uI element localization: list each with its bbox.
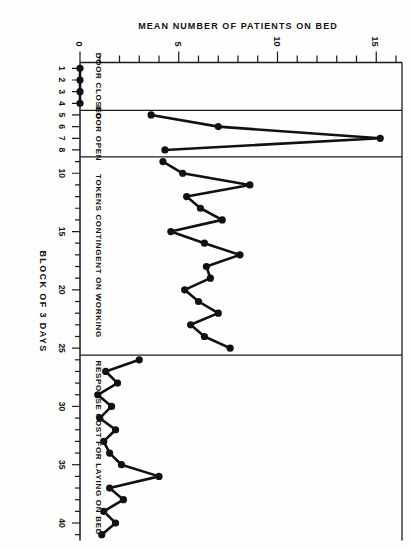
x-tick-label: 1 xyxy=(57,65,67,70)
x-tick-label: 2 xyxy=(57,77,67,82)
x-tick-label: 20 xyxy=(57,285,67,295)
x-tick-label: 15 xyxy=(57,226,67,236)
x-tick-label: 35 xyxy=(57,459,67,469)
line-chart-svg: 0510151234567810152025303540 DOOR CLOSED… xyxy=(0,0,410,549)
rotated-figure-container: 0510151234567810152025303540 DOOR CLOSED… xyxy=(0,0,410,549)
x-tick-label: 6 xyxy=(57,124,67,129)
x-tick-label: 30 xyxy=(57,401,67,411)
y-tick-label: 5 xyxy=(173,41,183,46)
x-tick-label: 7 xyxy=(57,135,67,140)
x-tick-label: 40 xyxy=(57,518,67,528)
x-tick-label: 5 xyxy=(57,112,67,117)
x-tick-label: 25 xyxy=(57,343,67,353)
y-tick-label: 15 xyxy=(370,36,380,46)
figure-canvas: 0510151234567810152025303540 DOOR CLOSED… xyxy=(0,0,410,549)
phase-labels-group: DOOR CLOSEDDOOR OPENTOKENS CONTINGENT ON… xyxy=(94,52,103,534)
x-tick-label: 8 xyxy=(57,147,67,152)
y-tick-label: 0 xyxy=(74,41,84,46)
x-axis-title: BLOCK OF 3 DAYS xyxy=(38,250,48,352)
x-tick-label: 4 xyxy=(57,100,67,105)
y-axis-title: MEAN NUMBER OF PATIENTS ON BED xyxy=(138,20,338,30)
phase-label: RESPONSE COST FOR LAYING ON BED xyxy=(94,360,103,535)
x-tick-label: 3 xyxy=(57,89,67,94)
y-tick-label: 10 xyxy=(272,36,282,46)
phase-label: DOOR OPEN xyxy=(94,106,103,161)
plot-area-wrapper: 0510151234567810152025303540 DOOR CLOSED… xyxy=(0,0,410,549)
phase-label: TOKENS CONTINGENT ON WORKING xyxy=(94,174,103,338)
x-tick-label: 10 xyxy=(57,168,67,178)
